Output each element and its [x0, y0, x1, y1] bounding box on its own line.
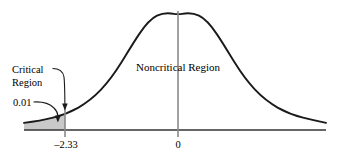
critical-region-label-line2: Region: [12, 77, 43, 88]
alpha-leader-line: [34, 102, 58, 116]
critical-region-leader-line: [53, 69, 65, 105]
critical-region-leader-arrowhead: [62, 104, 68, 111]
distribution-chart-svg: Critical Region 0.01 Noncritical Region …: [0, 0, 341, 158]
critical-region-label-line1: Critical: [12, 64, 44, 75]
noncritical-region-label: Noncritical Region: [136, 61, 221, 73]
normal-distribution-figure: Critical Region 0.01 Noncritical Region …: [0, 0, 341, 158]
alpha-value-label: 0.01: [13, 97, 31, 108]
x-tick-label-critical-value: –2.33: [53, 139, 78, 150]
x-tick-label-zero: 0: [175, 139, 180, 150]
